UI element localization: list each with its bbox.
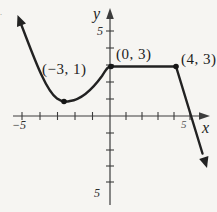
point-dot-plateau-right [173, 64, 179, 70]
y-axis-tick-label-bottom: 5 [94, 187, 100, 199]
y-axis-arrowhead [106, 8, 114, 19]
point-label-neg3-1: (−3, 1) [42, 62, 86, 77]
point-dot-plateau-left [108, 64, 114, 70]
axes [13, 17, 202, 205]
point-label-0-3: (0, 3) [116, 47, 152, 62]
x-axis-label: x [202, 120, 209, 136]
point-label-4-3: (4, 3) [181, 52, 217, 67]
function-graph-figure: . 5 [0, 0, 217, 212]
x-axis-tick-label-neg5: −5 [12, 119, 26, 131]
function-curve [21, 24, 203, 154]
point-dot-local-min [61, 99, 67, 105]
curve-right-arrowhead [199, 156, 208, 168]
y-axis-tick-label-top: 5 [97, 25, 103, 37]
cropped-text-fragment: . [0, 8, 2, 17]
y-axis-label: y [93, 6, 100, 22]
curve-plot-canvas [0, 0, 217, 212]
